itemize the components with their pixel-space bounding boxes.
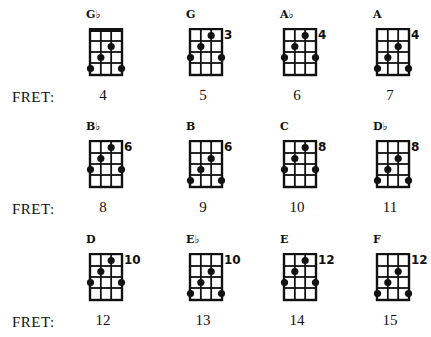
- finger-dot: [374, 290, 381, 297]
- finger-dot: [405, 290, 412, 297]
- finger-dot: [197, 43, 204, 50]
- chord-diagram: C810: [280, 120, 340, 220]
- start-fret-marker: 8: [318, 140, 326, 154]
- fretboard-grid: [373, 253, 407, 301]
- finger-dot: [197, 279, 204, 286]
- finger-dot: [312, 166, 319, 173]
- finger-dot: [302, 32, 309, 39]
- chord-diagram: A♭46: [280, 8, 340, 108]
- finger-dot: [374, 65, 381, 72]
- finger-dot: [187, 290, 194, 297]
- fretboard-grid: [86, 28, 120, 76]
- chord-diagram: A47: [373, 8, 431, 108]
- finger-dot: [108, 257, 115, 264]
- fretboard-grid: [280, 140, 314, 188]
- fret-number: 7: [373, 87, 407, 104]
- finger-dot: [187, 177, 194, 184]
- chord-diagram: F1215: [373, 233, 431, 333]
- chord-name: C: [280, 120, 289, 133]
- fret-number: 9: [186, 199, 220, 216]
- finger-dot: [312, 54, 319, 61]
- finger-dot: [384, 54, 391, 61]
- start-fret-marker: 4: [411, 28, 419, 42]
- fretboard-grid: [186, 253, 220, 301]
- finger-dot: [384, 279, 391, 286]
- finger-dot: [208, 32, 215, 39]
- chord-name: B: [186, 120, 195, 133]
- fretboard-grid: [373, 140, 407, 188]
- finger-dot: [405, 177, 412, 184]
- finger-dot: [218, 290, 225, 297]
- finger-dot: [384, 166, 391, 173]
- chord-name: A: [373, 8, 382, 21]
- finger-dot: [281, 166, 288, 173]
- fretboard-grid: [86, 253, 120, 301]
- finger-dot: [291, 268, 298, 275]
- chord-name: E♭: [186, 233, 200, 246]
- fretboard-grid: [86, 140, 120, 188]
- finger-dot: [395, 155, 402, 162]
- finger-dot: [218, 177, 225, 184]
- start-fret-marker: 6: [224, 140, 232, 154]
- chord-name: A♭: [280, 8, 294, 21]
- fret-row-label: FRET:: [12, 314, 55, 331]
- fret-number: 4: [86, 87, 120, 104]
- finger-dot: [87, 65, 94, 72]
- start-fret-marker: 12: [318, 253, 335, 267]
- finger-dot: [108, 43, 115, 50]
- fret-number: 10: [280, 199, 314, 216]
- chord-diagram: D♭811: [373, 120, 431, 220]
- finger-dot: [97, 268, 104, 275]
- finger-dot: [395, 43, 402, 50]
- start-fret-marker: 10: [124, 253, 141, 267]
- start-fret-marker: 4: [318, 28, 326, 42]
- fret-number: 11: [373, 199, 407, 216]
- chord-name: G♭: [86, 8, 101, 21]
- fretboard-grid: [280, 253, 314, 301]
- finger-dot: [118, 279, 125, 286]
- chord-diagram: D1012: [86, 233, 146, 333]
- chord-name: E: [280, 233, 288, 246]
- chord-name: F: [373, 233, 381, 246]
- start-fret-marker: 3: [224, 28, 232, 42]
- finger-dot: [208, 268, 215, 275]
- fret-row-label: FRET:: [12, 201, 55, 218]
- finger-dot: [312, 279, 319, 286]
- finger-dot: [87, 279, 94, 286]
- chord-name: D♭: [373, 120, 388, 133]
- chord-name: B♭: [86, 120, 101, 133]
- finger-dot: [405, 65, 412, 72]
- finger-dot: [291, 155, 298, 162]
- finger-dot: [87, 166, 94, 173]
- fret-number: 15: [373, 312, 407, 329]
- chord-diagram: G♭4: [86, 8, 146, 108]
- fret-row-label: FRET:: [12, 89, 55, 106]
- chord-name: G: [186, 8, 195, 21]
- fret-number: 8: [86, 199, 120, 216]
- fretboard-grid: [280, 28, 314, 76]
- finger-dot: [97, 54, 104, 61]
- start-fret-marker: 12: [411, 253, 428, 267]
- chord-diagram: B♭68: [86, 120, 146, 220]
- chord-diagram: G35: [186, 8, 246, 108]
- fret-number: 12: [86, 312, 120, 329]
- fretboard-grid: [373, 28, 407, 76]
- chord-name: D: [86, 233, 96, 246]
- fretboard-grid: [186, 140, 220, 188]
- start-fret-marker: 10: [224, 253, 241, 267]
- fret-number: 13: [186, 312, 220, 329]
- finger-dot: [291, 43, 298, 50]
- finger-dot: [118, 65, 125, 72]
- start-fret-marker: 6: [124, 140, 132, 154]
- finger-dot: [302, 257, 309, 264]
- finger-dot: [118, 166, 125, 173]
- finger-dot: [208, 155, 215, 162]
- chord-diagram: E♭1013: [186, 233, 246, 333]
- chord-diagram: E1214: [280, 233, 340, 333]
- fret-number: 6: [280, 87, 314, 104]
- finger-dot: [302, 144, 309, 151]
- finger-dot: [395, 268, 402, 275]
- finger-dot: [197, 166, 204, 173]
- start-fret-marker: 8: [411, 140, 419, 154]
- finger-dot: [281, 279, 288, 286]
